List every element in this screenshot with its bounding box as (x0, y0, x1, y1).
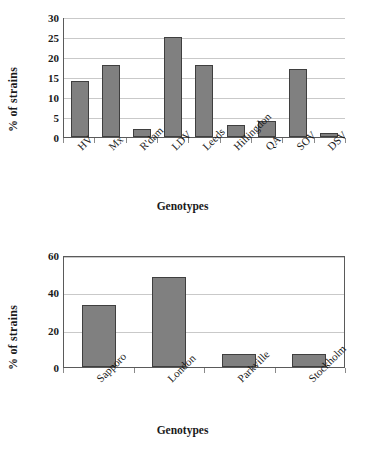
y-axis-tick-labels: 051015202530 (37, 18, 59, 138)
bar-slot (314, 18, 345, 137)
y-axis-tick-label: 15 (48, 73, 59, 84)
x-axis-tick (126, 138, 127, 143)
bar-slot (158, 18, 189, 137)
x-axis-tick (275, 368, 276, 373)
bar (164, 37, 182, 137)
bar-slot (220, 18, 251, 137)
bar (152, 277, 186, 367)
x-axis-tick (204, 368, 205, 373)
bar-slot (126, 18, 157, 137)
x-axis-title: Genotypes (0, 424, 365, 436)
plot-area (63, 256, 345, 368)
y-axis-tick-label: 20 (48, 325, 59, 336)
y-axis-tick-label: 10 (48, 93, 59, 104)
bar-series (64, 18, 345, 137)
bar-chart-genotypes-sapporo: % of strains 0204060 SapporoLondonParkvi… (0, 232, 365, 465)
bar (289, 69, 307, 137)
y-axis-title: % of strains (6, 270, 21, 370)
bar (195, 65, 213, 137)
bar (71, 81, 89, 137)
x-axis-title: Genotypes (0, 200, 365, 212)
x-axis-tick (345, 368, 346, 373)
y-axis-tick-label: 25 (48, 33, 59, 44)
x-axis-tick (63, 138, 64, 143)
y-axis-tick-labels: 0204060 (37, 256, 59, 368)
y-axis-tick-label: 40 (48, 288, 59, 299)
bar (102, 65, 120, 137)
bar-slot (64, 18, 95, 137)
bar-slot (189, 18, 220, 137)
bar-slot (64, 257, 134, 367)
bar-slot (95, 18, 126, 137)
y-axis-title: % of strains (6, 32, 21, 132)
bar-series (64, 257, 344, 367)
y-axis-tick-label: 0 (54, 133, 60, 144)
bar-slot (134, 257, 204, 367)
plot-area (63, 18, 345, 138)
bar-chart-genotypes-uk: % of strains 051015202530 HVMxR'damLDVLe… (0, 0, 365, 232)
y-axis-tick-label: 5 (54, 113, 60, 124)
y-axis-tick-label: 0 (54, 363, 60, 374)
x-axis-tick (134, 368, 135, 373)
y-axis-tick-label: 20 (48, 53, 59, 64)
y-axis-tick-label: 30 (48, 13, 59, 24)
bar-slot (283, 18, 314, 137)
x-axis-tick (63, 368, 64, 373)
y-axis-tick-label: 60 (48, 251, 59, 262)
